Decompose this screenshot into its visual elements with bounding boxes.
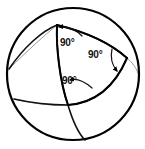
spherical-triangle-figure: 90° 90° 90° — [0, 0, 145, 149]
angle-label-bottom: 90° — [62, 76, 77, 86]
angle-label-right: 90° — [88, 50, 103, 60]
angle-label-top: 90° — [60, 38, 75, 48]
